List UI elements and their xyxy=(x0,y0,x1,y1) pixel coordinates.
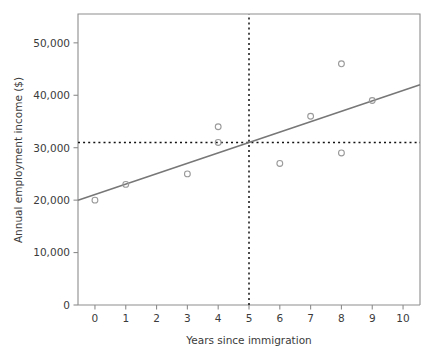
x-tick-label: 10 xyxy=(396,312,409,324)
data-point-marker xyxy=(184,171,190,177)
y-axis-title: Annual employment income ($) xyxy=(12,77,24,243)
x-tick-label: 8 xyxy=(338,312,345,324)
chart-container: 012345678910 010,00020,00030,00040,00050… xyxy=(0,0,438,352)
scatter-plot: 012345678910 010,00020,00030,00040,00050… xyxy=(0,0,438,352)
y-tick-label: 0 xyxy=(63,299,70,311)
reference-lines xyxy=(78,14,420,305)
y-tick-label: 40,000 xyxy=(33,89,70,101)
plot-border xyxy=(78,14,420,305)
data-point-marker xyxy=(339,150,345,156)
y-tick-label: 50,000 xyxy=(33,37,70,49)
x-tick-label: 9 xyxy=(369,312,376,324)
x-tick-label: 0 xyxy=(92,312,99,324)
y-axis-ticks: 010,00020,00030,00040,00050,000 xyxy=(33,37,78,311)
x-tick-label: 4 xyxy=(215,312,222,324)
x-tick-label: 2 xyxy=(153,312,160,324)
x-tick-label: 3 xyxy=(184,312,191,324)
x-tick-label: 1 xyxy=(122,312,129,324)
data-point-marker xyxy=(215,124,221,130)
x-tick-label: 6 xyxy=(276,312,283,324)
data-point-marker xyxy=(277,161,283,167)
data-point-marker xyxy=(308,113,314,119)
y-tick-label: 20,000 xyxy=(33,194,70,206)
y-tick-label: 10,000 xyxy=(33,246,70,258)
data-point-marker xyxy=(92,197,98,203)
x-axis-title: Years since immigration xyxy=(185,334,311,346)
plot-frame xyxy=(78,14,420,305)
x-tick-label: 5 xyxy=(246,312,253,324)
x-tick-label: 7 xyxy=(307,312,314,324)
y-tick-label: 30,000 xyxy=(33,142,70,154)
x-axis-ticks: 012345678910 xyxy=(92,305,410,324)
data-point-marker xyxy=(339,61,345,67)
